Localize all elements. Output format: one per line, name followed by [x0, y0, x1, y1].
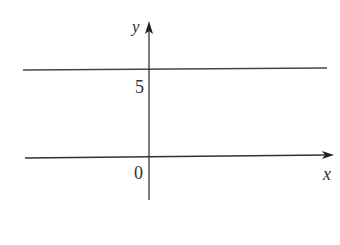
- y-tick-label-5: 5: [135, 77, 144, 97]
- x-axis-label: x: [322, 164, 331, 184]
- coordinate-plot: y 5 0 x: [0, 0, 340, 245]
- line-y-equals-5: [23, 68, 327, 70]
- y-axis-label: y: [130, 17, 140, 36]
- origin-label: 0: [134, 163, 143, 183]
- graph-canvas: y 5 0 x: [0, 0, 340, 245]
- x-axis: [25, 155, 326, 158]
